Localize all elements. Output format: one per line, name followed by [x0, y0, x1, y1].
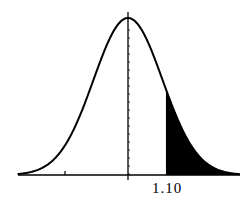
shaded-tail-area	[166, 89, 240, 175]
normal-curve-chart	[0, 0, 251, 205]
density-curve	[18, 18, 240, 174]
z-value-label: 1.10	[152, 180, 182, 197]
